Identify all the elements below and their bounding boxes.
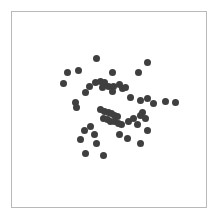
data-point [75, 67, 82, 74]
data-point [77, 136, 84, 143]
data-point [122, 84, 129, 91]
data-point [82, 150, 89, 157]
data-point [109, 88, 116, 95]
data-point [109, 69, 116, 76]
data-point [124, 135, 131, 142]
data-point [93, 55, 100, 62]
data-point [127, 94, 134, 101]
data-point [93, 140, 100, 147]
data-point [135, 69, 142, 76]
data-point [87, 123, 94, 130]
data-point [60, 80, 67, 87]
plot-frame [11, 11, 207, 208]
data-point [162, 98, 169, 105]
data-point [82, 89, 89, 96]
data-point [81, 127, 88, 134]
data-point [91, 131, 98, 138]
data-point [64, 69, 71, 76]
data-point [150, 100, 157, 107]
scatter-plot-figure [0, 0, 218, 222]
data-point [134, 121, 141, 128]
data-point [73, 104, 80, 111]
data-point [100, 152, 107, 159]
data-point [172, 99, 179, 106]
data-point [144, 127, 151, 134]
data-point [116, 131, 123, 138]
data-point [137, 140, 144, 147]
data-point [142, 115, 149, 122]
data-point [137, 97, 144, 104]
data-points-layer [12, 12, 206, 207]
data-point [144, 59, 151, 66]
